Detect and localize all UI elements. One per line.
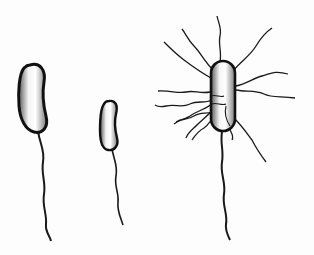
flagellum-icon — [38, 131, 51, 241]
bacterium-peritrichous — [155, 16, 295, 240]
flagellum-icon — [112, 149, 123, 225]
cell-body-icon — [19, 64, 47, 132]
bacteria-illustration — [0, 0, 314, 255]
bacterium-monotrichous-small — [100, 101, 123, 225]
cell-body-icon — [100, 101, 117, 150]
bacterium-monotrichous-large — [19, 64, 51, 241]
